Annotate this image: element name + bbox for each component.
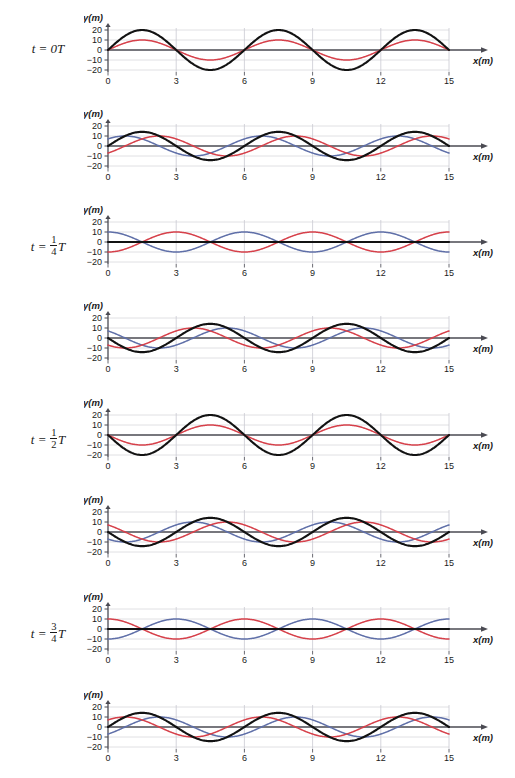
y-tick-label: −20 [87, 742, 102, 752]
y-tick-label: 10 [92, 420, 102, 430]
x-tick-label: 0 [105, 753, 110, 763]
x-axis-title: x(m) [472, 634, 493, 645]
x-axis-arrow [481, 529, 488, 535]
y-tick-label: 0 [97, 624, 102, 634]
y-axis-title: y(m) [84, 108, 103, 119]
x-axis-title: x(m) [472, 343, 493, 354]
x-axis-arrow [481, 724, 488, 730]
x-axis-arrow [481, 143, 488, 149]
x-axis-arrow [481, 335, 488, 341]
y-tick-label: 20 [92, 507, 102, 517]
wave-panel-2: t = 14T20100−10−2003691215y(m)x(m) [0, 196, 515, 293]
y-axis-title: y(m) [84, 591, 103, 602]
y-axis-title: y(m) [84, 689, 103, 700]
x-tick-label: 6 [242, 268, 247, 278]
x-tick-label: 6 [242, 753, 247, 763]
standing-wave-figure: t = 0T20100−10−2003691215y(m)x(m)20100−1… [0, 0, 515, 778]
y-tick-label: 10 [92, 131, 102, 141]
plot-area-panel-3: 20100−10−2003691215y(m)x(m) [84, 292, 515, 389]
time-label-panel-4: t = 12T [12, 427, 84, 450]
x-tick-label: 6 [242, 364, 247, 374]
time-label-fraction: 14 [50, 234, 57, 257]
y-tick-label: −20 [87, 65, 102, 75]
x-tick-label: 9 [310, 364, 315, 374]
x-tick-label: 3 [174, 76, 179, 86]
x-tick-label: 15 [444, 461, 454, 471]
fraction-numerator: 3 [50, 621, 57, 633]
x-tick-label: 15 [444, 558, 454, 568]
time-label-panel-0: t = 0T [12, 42, 84, 55]
y-tick-label: −10 [87, 537, 102, 547]
x-tick-label: 3 [174, 364, 179, 374]
x-axis-arrow [481, 432, 488, 438]
plot-area-panel-5: 20100−10−2003691215y(m)x(m) [84, 486, 515, 583]
x-axis-title: x(m) [472, 732, 493, 743]
x-tick-label: 9 [310, 753, 315, 763]
x-tick-label: 15 [444, 364, 454, 374]
x-tick-label: 15 [444, 76, 454, 86]
y-tick-label: −20 [87, 353, 102, 363]
x-tick-label: 9 [310, 268, 315, 278]
y-axis-title: y(m) [84, 397, 103, 408]
fraction-numerator: 1 [50, 234, 57, 246]
x-tick-label: 6 [242, 461, 247, 471]
time-label-period-symbol: T [58, 432, 65, 447]
y-tick-label: 20 [92, 410, 102, 420]
x-tick-label: 6 [242, 172, 247, 182]
x-tick-label: 15 [444, 268, 454, 278]
y-tick-label: −20 [87, 547, 102, 557]
x-tick-label: 0 [105, 364, 110, 374]
y-axis-arrow [105, 119, 110, 123]
plot-area-panel-7: 20100−10−2003691215y(m)x(m) [84, 681, 515, 778]
x-tick-label: 0 [105, 558, 110, 568]
x-tick-label: 0 [105, 461, 110, 471]
x-tick-label: 12 [376, 655, 386, 665]
x-tick-label: 12 [376, 172, 386, 182]
y-tick-label: −10 [87, 55, 102, 65]
x-tick-label: 3 [174, 461, 179, 471]
y-tick-label: −20 [87, 450, 102, 460]
x-tick-label: 12 [376, 753, 386, 763]
y-tick-label: 0 [97, 430, 102, 440]
y-tick-label: −10 [87, 247, 102, 257]
y-axis-arrow [105, 23, 110, 27]
x-axis-title: x(m) [472, 440, 493, 451]
x-tick-label: 12 [376, 461, 386, 471]
wave-panel-0: t = 0T20100−10−2003691215y(m)x(m) [0, 4, 515, 101]
plot-area-panel-4: 20100−10−2003691215y(m)x(m) [84, 389, 515, 486]
wave-panel-7: 20100−10−2003691215y(m)x(m) [0, 681, 515, 778]
y-tick-label: 0 [97, 722, 102, 732]
x-tick-label: 3 [174, 268, 179, 278]
y-axis-arrow [105, 215, 110, 219]
y-tick-label: 20 [92, 313, 102, 323]
time-label-panel-2: t = 14T [12, 234, 84, 257]
time-label-panel-6: t = 34T [12, 621, 84, 644]
y-tick-label: 0 [97, 141, 102, 151]
x-tick-label: 15 [444, 753, 454, 763]
x-tick-label: 0 [105, 172, 110, 182]
wave-panel-5: 20100−10−2003691215y(m)x(m) [0, 486, 515, 583]
time-label-fraction: 34 [50, 621, 57, 644]
time-label-lhs: t = [31, 239, 50, 254]
x-tick-label: 9 [310, 655, 315, 665]
y-axis-title: y(m) [84, 12, 103, 23]
x-tick-label: 9 [310, 461, 315, 471]
y-tick-label: 20 [92, 217, 102, 227]
y-tick-label: −10 [87, 343, 102, 353]
y-tick-label: 0 [97, 333, 102, 343]
y-tick-label: 10 [92, 323, 102, 333]
y-tick-label: 20 [92, 25, 102, 35]
x-tick-label: 6 [242, 558, 247, 568]
y-tick-label: 0 [97, 237, 102, 247]
plot-area-panel-1: 20100−10−2003691215y(m)x(m) [84, 100, 515, 197]
y-axis-title: y(m) [84, 494, 103, 505]
fraction-numerator: 1 [50, 427, 57, 439]
x-tick-label: 3 [174, 655, 179, 665]
time-label-period-symbol: T [58, 626, 65, 641]
y-axis-title: y(m) [84, 204, 103, 215]
plot-area-panel-2: 20100−10−2003691215y(m)x(m) [84, 196, 515, 293]
x-axis-title: x(m) [472, 151, 493, 162]
fraction-denominator: 4 [50, 246, 57, 257]
y-axis-arrow [105, 311, 110, 315]
time-label-fraction: 12 [50, 427, 57, 450]
